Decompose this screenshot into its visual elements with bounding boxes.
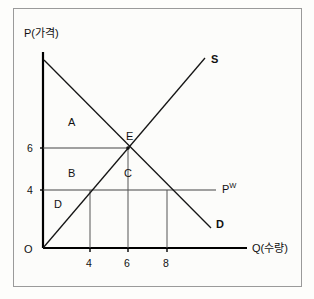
x-axis-label: Q(수량)	[252, 243, 288, 254]
x-tick-label-8: 8	[163, 258, 169, 269]
supply-curve-label: S	[211, 54, 218, 65]
region-label-b: B	[68, 168, 75, 179]
y-tick-label-4: 4	[27, 185, 33, 196]
x-tick-label-4: 4	[86, 258, 92, 269]
figure-page: P(가격) Q(수량) O 6 4 4 6 8 S D E PW A B C D	[0, 0, 314, 299]
y-tick-label-6: 6	[27, 143, 33, 154]
origin-label: O	[24, 244, 33, 255]
region-label-d: D	[54, 199, 62, 210]
demand-curve-label: D	[216, 219, 224, 230]
supply-curve	[43, 58, 205, 248]
supply-demand-diagram	[0, 0, 314, 299]
world-price-label: PW	[222, 183, 236, 195]
equilibrium-point-label: E	[126, 131, 133, 142]
y-axis-label: P(가격)	[24, 28, 59, 39]
equilibrium-point-marker	[126, 146, 130, 150]
world-price-label-superscript: W	[229, 181, 236, 190]
region-label-c: C	[124, 168, 132, 179]
x-tick-label-6: 6	[124, 258, 130, 269]
region-label-a: A	[68, 117, 75, 128]
